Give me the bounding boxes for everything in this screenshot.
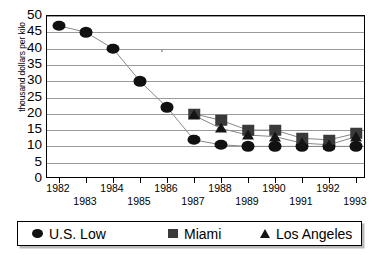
data-point-circle (134, 76, 147, 87)
x-tick-label: 1990 (257, 183, 291, 194)
y-tick-label: 25 (16, 90, 42, 104)
data-point-circle (53, 21, 66, 32)
data-point-triangle (188, 110, 200, 120)
x-tick-label: 1987 (176, 196, 210, 207)
y-tick-label: 5 (16, 155, 42, 169)
x-tick-label: 1983 (68, 196, 102, 207)
x-tick-label: 1993 (338, 196, 372, 207)
y-tick-label: 50 (16, 8, 42, 22)
chart-legend: U.S. LowMiamiLos Angeles (17, 221, 362, 246)
legend-marker-circle-icon (32, 229, 43, 238)
y-tick-label: 0 (16, 171, 42, 185)
legend-label: Los Angeles (276, 226, 352, 242)
y-tick-label: 10 (16, 138, 42, 152)
data-point-circle (269, 141, 282, 152)
legend-marker-triangle-icon (260, 229, 270, 238)
y-tick-label: 40 (16, 41, 42, 55)
data-point-circle (161, 102, 174, 113)
data-point-triangle (269, 131, 281, 141)
x-tick-label: 1989 (230, 196, 264, 207)
legend-label: U.S. Low (49, 226, 106, 242)
data-point-circle (188, 135, 201, 146)
data-point-triangle (215, 123, 227, 133)
x-tick-label: 1984 (95, 183, 129, 194)
data-point-circle (107, 43, 120, 54)
data-point-triangle (242, 129, 254, 139)
plot-area (46, 15, 365, 178)
y-tick-label: 20 (16, 106, 42, 120)
x-tick-label: 1986 (149, 183, 183, 194)
data-point-circle (80, 27, 93, 38)
y-tick-label: 15 (16, 122, 42, 136)
series-lines (47, 16, 366, 179)
data-point-circle (350, 141, 363, 152)
x-tick-label: 1988 (203, 183, 237, 194)
y-tick-label: 45 (16, 24, 42, 38)
legend-marker-square-icon (168, 229, 178, 238)
legend-entry: U.S. Low (32, 226, 106, 242)
x-tick-label: 1985 (122, 196, 156, 207)
y-tick-label: 30 (16, 73, 42, 87)
data-point-triangle (296, 138, 308, 148)
data-point-circle (242, 141, 255, 152)
data-point-triangle (350, 131, 362, 141)
legend-entry: Miami (168, 226, 221, 242)
legend-label: Miami (184, 226, 221, 242)
chart-container: thousand dollars per kilo 05101520253035… (0, 0, 379, 255)
x-tick-label: 1992 (311, 183, 345, 194)
x-tick-label: 1991 (284, 196, 318, 207)
x-tick-label: 1982 (41, 183, 75, 194)
y-axis-tick-labels: 05101520253035404550 (14, 0, 42, 190)
data-point-triangle (323, 139, 335, 149)
legend-entry: Los Angeles (260, 226, 352, 242)
y-tick-label: 35 (16, 57, 42, 71)
data-point-circle (215, 140, 228, 151)
